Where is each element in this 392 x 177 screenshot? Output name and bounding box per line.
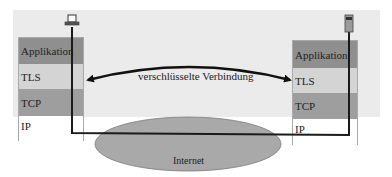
mobile-phone-icon — [345, 15, 353, 32]
laptop-icon — [65, 15, 79, 25]
encrypted-connection-label: verschlüsselte Verbindung — [138, 70, 254, 82]
diagram-overlay — [0, 0, 392, 177]
internet-label: Internet — [173, 155, 204, 166]
